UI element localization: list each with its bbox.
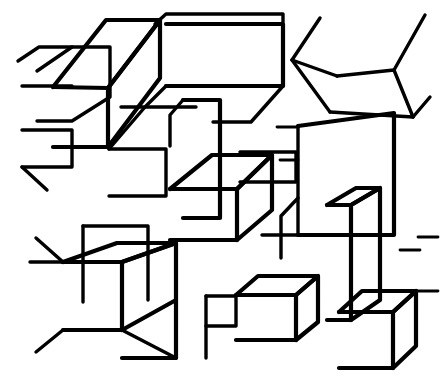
line-art-svg — [0, 0, 440, 391]
line-art-canvas — [0, 0, 440, 391]
